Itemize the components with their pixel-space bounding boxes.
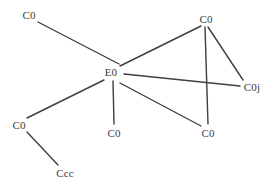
- node-label-ccc_bottom: Ccc: [56, 168, 74, 179]
- node-label-c0_top_left: C0: [22, 10, 35, 21]
- graph-diagram: E0C0C0C0jC0C0C0Ccc: [0, 0, 274, 184]
- node-label-c0_bottom_right: C0: [201, 128, 214, 139]
- node-label-e0: E0: [105, 67, 118, 78]
- edge-c0_top_right-to-c0j_right: [208, 27, 243, 80]
- node-label-c0_left_low: C0: [12, 120, 25, 131]
- edge-e0-to-c0_bottom_right: [120, 83, 201, 126]
- edge-e0-to-c0_left_low: [27, 80, 104, 118]
- edge-c0_left_low-to-ccc_bottom: [27, 132, 58, 165]
- edge-e0-to-c0_top_right: [120, 26, 201, 66]
- node-label-c0j_right: C0j: [244, 82, 261, 93]
- edge-e0-to-c0_top_left: [38, 22, 119, 64]
- node-label-c0_top_right: C0: [199, 14, 212, 25]
- edge-e0-to-c0_bottom_mid: [113, 81, 114, 124]
- node-label-c0_bottom_mid: C0: [107, 128, 120, 139]
- edge-e0-to-c0j_right: [124, 74, 240, 86]
- edges-group: [27, 22, 243, 165]
- edge-c0_top_right-to-c0_bottom_right: [205, 27, 208, 124]
- edge-layer: [0, 0, 274, 184]
